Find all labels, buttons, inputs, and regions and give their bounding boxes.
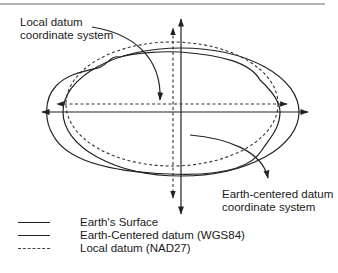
legend-solid-line-icon xyxy=(18,222,50,223)
datum-diagram: Local datum coordinate system Earth-cent… xyxy=(0,0,338,273)
local-datum-label-line1: Local datum xyxy=(20,16,113,29)
local-datum-label: Local datum coordinate system xyxy=(20,16,113,42)
earth-centered-label-line1: Earth-centered datum xyxy=(222,188,333,201)
legend-label: Earth's Surface xyxy=(80,216,158,229)
legend-item-earth-surface: Earth's Surface xyxy=(18,216,158,229)
legend-item-wgs84: Earth-Centered datum (WGS84) xyxy=(18,229,245,242)
earth-centered-label-line2: coordinate system xyxy=(222,201,333,214)
legend-dashed-line-icon xyxy=(18,248,50,249)
legend-item-nad27: Local datum (NAD27) xyxy=(18,242,191,255)
legend-label: Earth-Centered datum (WGS84) xyxy=(80,229,245,242)
earth-surface-outline xyxy=(47,52,280,175)
legend-label: Local datum (NAD27) xyxy=(80,242,191,255)
earth-centered-label: Earth-centered datum coordinate system xyxy=(222,188,333,214)
local-datum-label-line2: coordinate system xyxy=(20,29,113,42)
legend-solid-line-icon xyxy=(18,235,50,236)
